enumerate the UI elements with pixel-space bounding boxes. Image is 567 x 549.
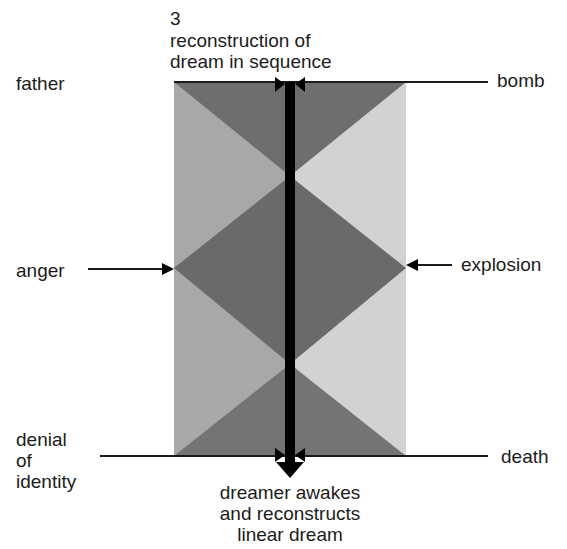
caption-line-3: linear dream <box>190 524 390 545</box>
label-identity: identity <box>16 471 76 492</box>
sequence-bar <box>285 82 295 462</box>
down-arrow-icon <box>276 462 304 478</box>
title-line-1: reconstruction of <box>170 30 310 51</box>
explosion-arrow-icon <box>406 259 418 271</box>
label-explosion: explosion <box>461 254 541 275</box>
diagram-number: 3 <box>170 8 181 29</box>
title-line-2: dream in sequence <box>170 51 332 72</box>
caption-line-1: dreamer awakes <box>190 482 390 503</box>
caption-line-2: and reconstructs <box>190 503 390 524</box>
label-bomb: bomb <box>497 70 545 91</box>
label-denial: denial <box>16 429 67 450</box>
anger-arrow-icon <box>162 263 174 275</box>
label-death: death <box>501 446 549 467</box>
label-father: father <box>16 73 65 94</box>
label-of: of <box>16 450 32 471</box>
label-anger: anger <box>16 260 65 281</box>
